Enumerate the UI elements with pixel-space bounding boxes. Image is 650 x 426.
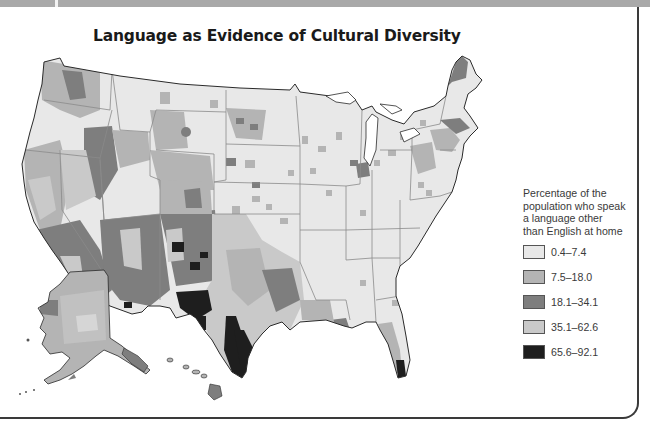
legend-swatch <box>523 245 545 259</box>
legend-title-line: Percentage of the <box>523 187 648 200</box>
legend-title-line: population who speak <box>523 200 648 213</box>
legend-item: 7.5–18.0 <box>523 270 648 284</box>
legend-item: 18.1–34.1 <box>523 295 648 309</box>
legend-label: 65.6–92.1 <box>551 346 598 358</box>
legend-title-line: a language other <box>523 212 648 225</box>
legend-swatch <box>523 320 545 334</box>
legend-label: 0.4–7.4 <box>551 246 586 258</box>
legend-label: 35.1–62.6 <box>551 321 598 333</box>
hawaii <box>167 358 222 400</box>
legend-title-line: than English at home <box>523 225 648 238</box>
map-legend: Percentage of the population who speak a… <box>523 187 648 370</box>
legend-label: 7.5–18.0 <box>551 271 592 283</box>
legend-item: 35.1–62.6 <box>523 320 648 334</box>
legend-label: 18.1–34.1 <box>551 296 598 308</box>
legend-swatch <box>523 270 545 284</box>
legend-item: 0.4–7.4 <box>523 245 648 259</box>
legend-item: 65.6–92.1 <box>523 345 648 359</box>
legend-swatch <box>523 345 545 359</box>
legend-title: Percentage of the population who speak a… <box>523 187 648 237</box>
legend-swatch <box>523 295 545 309</box>
